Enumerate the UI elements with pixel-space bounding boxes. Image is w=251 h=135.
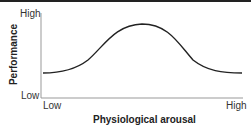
- x-axis-title: Physiological arousal: [93, 114, 196, 125]
- y-axis-title: Performance: [8, 20, 19, 90]
- y-high-label: High: [20, 9, 41, 19]
- performance-curve: [43, 24, 242, 73]
- x-high-label: High: [226, 101, 247, 111]
- x-low-label: Low: [43, 101, 61, 111]
- y-low-label: Low: [21, 91, 39, 101]
